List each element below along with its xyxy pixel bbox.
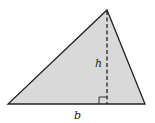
height-label: h	[95, 57, 102, 70]
triangle	[8, 10, 145, 104]
base-label: b	[74, 109, 81, 122]
triangle-diagram: h b	[0, 0, 155, 123]
